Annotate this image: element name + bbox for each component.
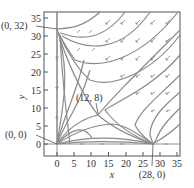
svg-text:15: 15 [31,85,41,96]
x-axis-label: x [109,169,115,180]
svg-text:5: 5 [36,121,41,132]
label-0-32: (0, 32) [1,20,28,32]
y-ticks [44,18,48,144]
svg-text:15: 15 [104,158,114,169]
svg-text:0: 0 [36,139,41,150]
phase-portrait-chart: 0 5 10 15 20 25 30 35 0 5 10 15 20 25 30… [0,0,194,188]
svg-text:10: 10 [31,103,41,114]
label-28-0: (28, 0) [139,169,166,181]
svg-text:20: 20 [31,67,41,78]
trajectories [57,12,180,144]
svg-text:10: 10 [86,158,96,169]
svg-text:25: 25 [138,158,148,169]
label-origin: (0, 0) [5,129,27,141]
svg-text:0: 0 [55,158,60,169]
y-tick-labels: 0 5 10 15 20 25 30 35 [31,13,41,150]
svg-text:35: 35 [31,13,41,24]
x-ticks [57,152,177,156]
label-12-8: (12, 8) [76,92,103,104]
svg-text:5: 5 [72,158,77,169]
x-tick-labels: 0 5 10 15 20 25 30 35 [55,158,183,169]
leader-032 [36,26,57,29]
leader-280 [152,144,153,166]
y-axis-label: y [16,94,27,100]
svg-text:30: 30 [31,31,41,42]
svg-text:30: 30 [155,158,165,169]
svg-text:25: 25 [31,49,41,60]
svg-text:20: 20 [121,158,131,169]
svg-text:35: 35 [172,158,182,169]
